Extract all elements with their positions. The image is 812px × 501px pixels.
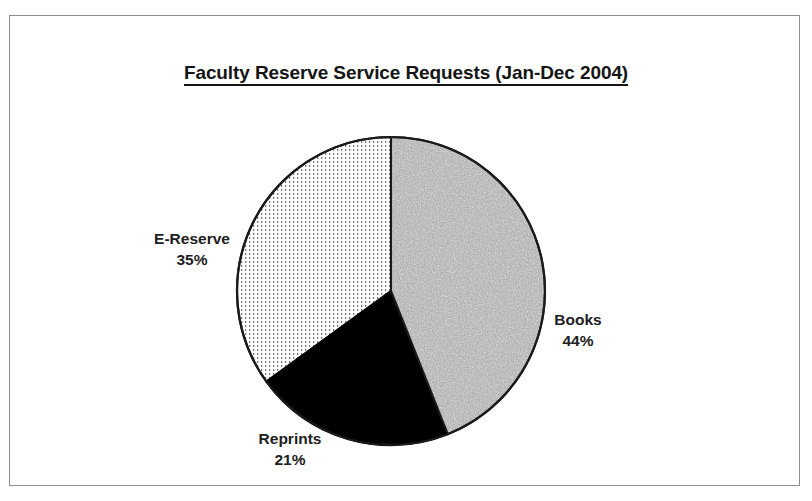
pie-label-reprints-percent: 21% — [212, 449, 368, 470]
pie-label-reprints: Reprints 21% — [212, 428, 368, 471]
chart-figure: Faculty Reserve Service Requests (Jan-De… — [0, 0, 812, 501]
pie-label-books: Books 44% — [500, 309, 656, 352]
pie-label-e-reserve: E-Reserve 35% — [112, 228, 272, 271]
pie-label-reprints-name: Reprints — [259, 430, 322, 447]
pie-label-e-reserve-percent: 35% — [112, 249, 272, 270]
pie-label-e-reserve-name: E-Reserve — [154, 230, 230, 247]
pie-label-books-name: Books — [554, 311, 601, 328]
pie-label-books-percent: 44% — [500, 330, 656, 351]
